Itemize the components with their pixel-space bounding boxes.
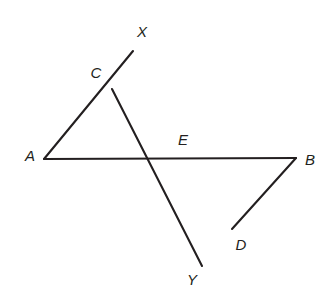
geometry-canvas bbox=[0, 0, 331, 303]
point-label-b: B bbox=[305, 152, 315, 167]
point-label-c: C bbox=[91, 65, 102, 80]
point-label-a: A bbox=[25, 148, 35, 163]
segment-c-to-y bbox=[112, 89, 202, 266]
point-label-x: X bbox=[137, 24, 147, 39]
segment-a-to-b bbox=[44, 158, 296, 159]
point-label-y: Y bbox=[187, 272, 197, 287]
point-label-d: D bbox=[236, 237, 247, 252]
geometry-figure: A B C D E X Y bbox=[0, 0, 331, 303]
segment-d-to-b bbox=[232, 158, 296, 229]
point-label-e: E bbox=[178, 132, 188, 147]
